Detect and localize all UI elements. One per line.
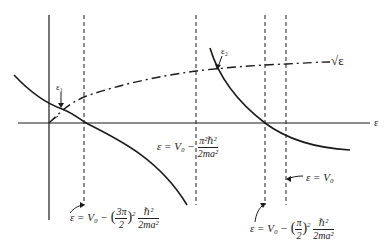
- diagram-canvas: [0, 0, 385, 250]
- arrowhead-eq-v0: [286, 176, 291, 182]
- eq-3pi-fraction: ℏ² 2ma²: [138, 207, 158, 230]
- eq-3pi-inner-den: 2: [115, 219, 127, 230]
- epsilon-2-label: ε₂: [221, 47, 228, 56]
- eq-pi-lhs: ε = V₀ −: [157, 140, 195, 152]
- eq-3pi-inner-num: 3π: [115, 207, 127, 219]
- eq-3pi-exp: 2: [132, 210, 136, 218]
- epsilon-axis-label: ε: [374, 117, 379, 128]
- equation-3pi-half: ε = V₀ − (3π2)2 ℏ² 2ma²: [70, 207, 159, 230]
- equation-pi-squared: ε = V₀ − π²ℏ² 2ma²: [157, 136, 218, 159]
- eq-3pi-lhs: ε = V₀ −: [70, 211, 108, 223]
- eq-pihalf-den: 2ma²: [313, 230, 333, 241]
- eq-pi-den: 2ma²: [198, 148, 218, 159]
- eq-3pi-num: ℏ²: [138, 207, 158, 219]
- eq-pihalf-num: ℏ²: [313, 218, 333, 230]
- eq-pi-fraction: π²ℏ² 2ma²: [198, 136, 218, 159]
- eq-3pi-den: 2ma²: [138, 219, 158, 230]
- eq-pihalf-lhs: ε = V₀ −: [250, 222, 288, 234]
- epsilon-1-label: ε₁: [56, 83, 63, 92]
- equation-pi-half: ε = V₀ − (π2)2 ℏ² 2ma²: [250, 218, 334, 241]
- eq-pihalf-exp: 2: [307, 221, 311, 229]
- curve-2: [210, 48, 350, 150]
- eq-3pi-inner: 3π2: [115, 207, 127, 230]
- eq-pi-num: π²ℏ²: [198, 136, 218, 148]
- equation-v0: ε = V₀: [306, 172, 334, 183]
- sqrt-epsilon-label: √ε: [331, 54, 344, 67]
- eq-pihalf-fraction: ℏ² 2ma²: [313, 218, 333, 241]
- sqrt-epsilon-curve: [49, 62, 330, 123]
